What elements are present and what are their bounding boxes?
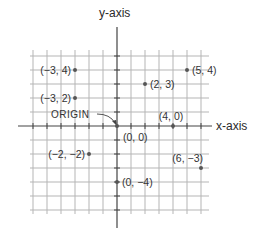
coordinate-plane-diagram: y-axis x-axis ORIGIN (−3, 4)(5, 4)(2, 3)… — [0, 0, 258, 234]
point-label: (4, 0) — [159, 111, 184, 122]
point-label: (−2, −2) — [48, 149, 85, 160]
origin-pointer-arrow — [97, 114, 115, 123]
x-axis-label: x-axis — [216, 120, 247, 132]
point-label: (0, −4) — [122, 177, 153, 188]
point-label: (0, 0) — [123, 132, 148, 143]
point-marker — [73, 68, 77, 72]
point-label: (−3, 2) — [40, 93, 71, 104]
point-marker — [199, 166, 203, 170]
point-label: (−3, 4) — [40, 65, 71, 76]
point-marker — [115, 124, 119, 128]
point-label: (6, −3) — [172, 153, 203, 164]
point-marker — [143, 82, 147, 86]
y-axis-label: y-axis — [99, 7, 130, 19]
point-label: (5, 4) — [192, 65, 217, 76]
point-marker — [87, 152, 91, 156]
coordinate-grid — [0, 0, 258, 234]
point-marker — [115, 180, 119, 184]
point-marker — [171, 124, 175, 128]
point-label: (2, 3) — [150, 79, 175, 90]
point-marker — [185, 68, 189, 72]
origin-label: ORIGIN — [51, 110, 90, 120]
point-marker — [73, 96, 77, 100]
